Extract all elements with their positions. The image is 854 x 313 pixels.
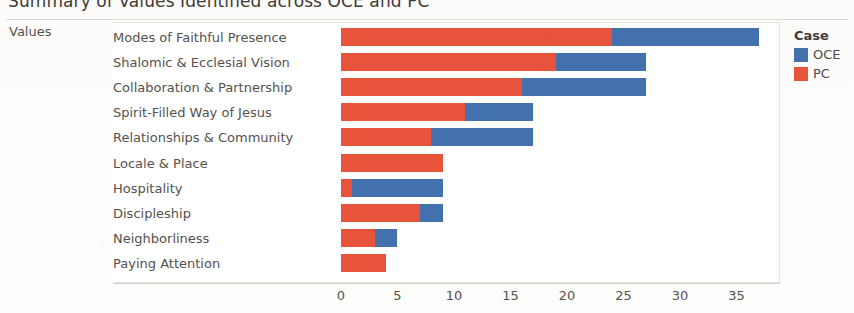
- x-tick-label: 20: [559, 288, 576, 303]
- bar-row: Collaboration & Partnership: [113, 74, 780, 99]
- bar-row-label: Spirit-Filled Way of Jesus: [113, 106, 272, 119]
- x-axis-line: [113, 283, 780, 284]
- bar-row-label: Locale & Place: [113, 156, 208, 169]
- legend: Case OCEPC: [794, 28, 852, 85]
- bar-row-label: Relationships & Community: [113, 131, 293, 144]
- bar-segment-oce: [522, 78, 646, 96]
- stacked-bar: [341, 254, 386, 272]
- x-tick-label: 0: [337, 288, 345, 303]
- bar-rows: Modes of Faithful PresenceShalomic & Ecc…: [113, 24, 780, 282]
- stacked-bar: [341, 28, 759, 46]
- bar-segment-oce: [420, 204, 443, 222]
- legend-item-label: OCE: [813, 47, 841, 62]
- stacked-bar: [341, 128, 533, 146]
- bar-row-label: Discipleship: [113, 206, 191, 219]
- bar-row: Shalomic & Ecclesial Vision: [113, 49, 780, 74]
- bar-segment-pc: [341, 254, 386, 272]
- axis-field-label: Values: [9, 24, 51, 39]
- x-tick-label: 25: [615, 288, 632, 303]
- bar-segment-oce: [612, 28, 759, 46]
- stacked-bar: [341, 53, 646, 71]
- x-tick-label: 35: [728, 288, 745, 303]
- bar-segment-oce: [375, 229, 398, 247]
- bar-row: Paying Attention: [113, 251, 780, 276]
- legend-swatch-icon: [794, 67, 808, 81]
- bar-segment-pc: [341, 28, 612, 46]
- bar-row-label: Modes of Faithful Presence: [113, 30, 287, 43]
- chart-title: Summary of Values Identified across OCE …: [8, 0, 429, 11]
- bar-row-label: Shalomic & Ecclesial Vision: [113, 55, 290, 68]
- x-tick-label: 30: [672, 288, 689, 303]
- bar-segment-pc: [341, 204, 420, 222]
- bar-row-label: Neighborliness: [113, 232, 209, 245]
- bar-segment-oce: [352, 179, 442, 197]
- legend-item-label: PC: [813, 66, 830, 81]
- bar-segment-oce: [556, 53, 646, 71]
- bar-segment-pc: [341, 229, 375, 247]
- legend-swatch-icon: [794, 48, 808, 62]
- legend-item-oce[interactable]: OCE: [794, 47, 852, 62]
- stacked-bar: [341, 103, 533, 121]
- bar-segment-pc: [341, 103, 465, 121]
- bar-row: Spirit-Filled Way of Jesus: [113, 100, 780, 125]
- bar-segment-pc: [341, 179, 352, 197]
- bar-row: Neighborliness: [113, 226, 780, 251]
- bar-row-label: Paying Attention: [113, 257, 220, 270]
- bar-segment-oce: [465, 103, 533, 121]
- legend-items: OCEPC: [794, 47, 852, 81]
- bar-row-label: Collaboration & Partnership: [113, 80, 292, 93]
- x-tick-label: 5: [393, 288, 401, 303]
- bar-row: Discipleship: [113, 200, 780, 225]
- x-tick-label: 10: [446, 288, 463, 303]
- bar-segment-oce: [431, 128, 533, 146]
- x-tick-label: 15: [502, 288, 519, 303]
- bar-row: Relationships & Community: [113, 125, 780, 150]
- bar-row: Modes of Faithful Presence: [113, 24, 780, 49]
- bar-segment-pc: [341, 78, 522, 96]
- stacked-bar: [341, 204, 443, 222]
- legend-item-pc[interactable]: PC: [794, 66, 852, 81]
- bar-segment-pc: [341, 128, 431, 146]
- bar-segment-pc: [341, 53, 556, 71]
- bar-segment-pc: [341, 154, 443, 172]
- x-axis-tick-labels: 05101520253035: [341, 288, 811, 308]
- legend-title: Case: [794, 28, 852, 43]
- bar-row-label: Hospitality: [113, 181, 182, 194]
- stacked-bar: [341, 154, 443, 172]
- bar-row: Locale & Place: [113, 150, 780, 175]
- bar-row: Hospitality: [113, 175, 780, 200]
- stacked-bar: [341, 229, 397, 247]
- stacked-bar: [341, 179, 443, 197]
- title-divider: [6, 19, 848, 20]
- stacked-bar: [341, 78, 646, 96]
